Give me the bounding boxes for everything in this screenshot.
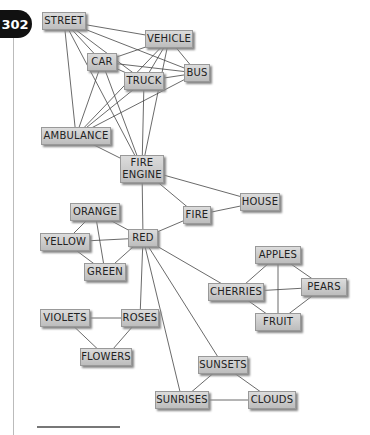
node-pears: PEARS bbox=[301, 278, 347, 296]
node-sunrises: SUNRISES bbox=[155, 391, 209, 409]
node-truck: TRUCK bbox=[124, 72, 164, 90]
node-violets: VIOLETS bbox=[40, 309, 90, 327]
node-car: CAR bbox=[87, 53, 117, 71]
node-ambulance: AMBULANCE bbox=[41, 127, 111, 145]
node-fruit: FRUIT bbox=[255, 313, 301, 331]
node-vehicle: VEHICLE bbox=[145, 30, 193, 48]
node-fire: FIRE bbox=[183, 206, 211, 224]
node-cherries: CHERRIES bbox=[208, 283, 264, 301]
node-flowers: FLOWERS bbox=[80, 348, 132, 366]
edge-red-roses bbox=[140, 238, 143, 318]
node-green: GREEN bbox=[84, 263, 126, 281]
node-street: STREET bbox=[42, 12, 86, 30]
node-orange: ORANGE bbox=[70, 203, 120, 221]
edge-street-fire_engine bbox=[64, 21, 142, 169]
node-bus: BUS bbox=[184, 64, 210, 82]
node-fire-engine: FIRE ENGINE bbox=[120, 155, 164, 183]
node-roses: ROSES bbox=[121, 309, 159, 327]
node-apples: APPLES bbox=[255, 246, 301, 264]
node-red: RED bbox=[128, 229, 158, 247]
edge-street-ambulance bbox=[64, 21, 76, 136]
node-yellow: YELLOW bbox=[40, 233, 90, 251]
node-clouds: CLOUDS bbox=[248, 391, 296, 409]
node-sunsets: SUNSETS bbox=[198, 356, 248, 374]
edge-red-sunsets bbox=[143, 238, 223, 365]
footer-rule bbox=[37, 426, 120, 428]
node-house: HOUSE bbox=[240, 193, 280, 211]
edge-vehicle-fire_engine bbox=[142, 39, 169, 169]
